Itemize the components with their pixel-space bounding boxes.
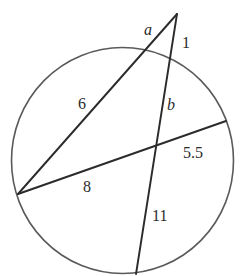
label-a: a (144, 21, 152, 38)
label-6: 6 (78, 95, 86, 112)
label-8: 8 (83, 178, 91, 195)
label-b: b (167, 96, 175, 113)
secant-chord-diagram: a 1 6 b 5.5 8 11 (0, 0, 245, 276)
label-11: 11 (152, 207, 167, 224)
label-5-5: 5.5 (183, 144, 203, 161)
label-1: 1 (182, 34, 190, 51)
